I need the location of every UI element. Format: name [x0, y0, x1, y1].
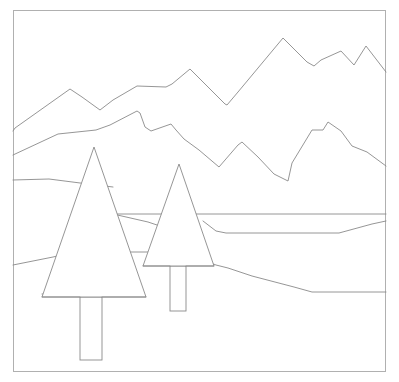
artwork-canvas — [0, 0, 399, 382]
landscape-line-drawing — [0, 0, 399, 382]
tree-large-trunk — [80, 297, 102, 360]
artwork-background — [0, 0, 399, 382]
tree-small-trunk — [170, 266, 186, 311]
